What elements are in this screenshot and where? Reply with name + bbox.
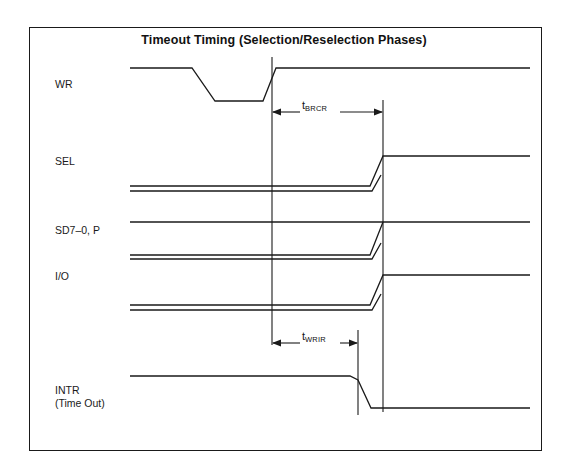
waveform-sel-low-lower	[130, 175, 381, 191]
waveform-intr	[130, 376, 530, 408]
timing-diagram-figure: Timeout Timing (Selection/Reselection Ph…	[0, 0, 568, 476]
waveform-sd-low-lower	[130, 243, 381, 259]
arrowhead-tbrcr-right	[374, 109, 383, 116]
waveform-sel-low-upper	[130, 156, 530, 186]
arrowhead-twrir-left	[272, 340, 281, 347]
waveform-io-low-upper	[130, 275, 530, 305]
waveform-io-low-lower	[130, 294, 381, 310]
waveform-canvas	[0, 0, 568, 476]
waveform-wr	[130, 68, 530, 101]
arrowhead-tbrcr-left	[272, 109, 281, 116]
arrowhead-twrir-right	[349, 340, 358, 347]
waveform-sd-low-upper	[130, 222, 383, 255]
